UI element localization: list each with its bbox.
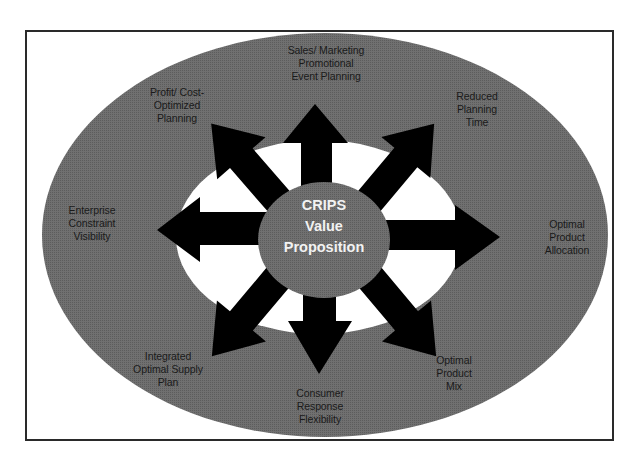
label-bottom-right-line3: Mix [436, 380, 472, 393]
label-bottom-right-line2: Product [436, 367, 472, 380]
label-bottom-right-line1: Optimal [436, 354, 472, 367]
center-title-line2: Value [284, 216, 365, 237]
label-bottom: Consumer Response Flexibility [296, 387, 344, 426]
label-top-left-line3: Planning [150, 112, 204, 125]
label-left-line2: Constraint [69, 217, 116, 230]
label-top: Sales/ Marketing Promotional Event Plann… [288, 44, 365, 83]
label-right-line3: Allocation [545, 244, 590, 257]
label-top-left-line2: Optimized [150, 99, 204, 112]
label-bottom-left-line1: Integrated [133, 350, 203, 363]
label-top-right: Reduced Planning Time [456, 90, 497, 129]
label-bottom-line2: Response [296, 400, 344, 413]
label-right-line1: Optimal [545, 218, 590, 231]
label-bottom-line1: Consumer [296, 387, 344, 400]
label-left: Enterprise Constraint Visibility [69, 204, 116, 243]
label-bottom-right: Optimal Product Mix [436, 354, 472, 393]
label-top-left: Profit/ Cost- Optimized Planning [150, 86, 204, 125]
label-top-left-line1: Profit/ Cost- [150, 86, 204, 99]
label-top-line1: Sales/ Marketing [288, 44, 365, 57]
label-left-line1: Enterprise [69, 204, 116, 217]
label-right-line2: Product [545, 231, 590, 244]
label-bottom-line3: Flexibility [296, 413, 344, 426]
label-top-line2: Promotional [288, 57, 365, 70]
center-title-line1: CRIPS [284, 195, 365, 216]
label-top-right-line3: Time [456, 116, 497, 129]
label-bottom-left-line2: Optimal Supply [133, 363, 203, 376]
center-title: CRIPS Value Proposition [284, 195, 365, 258]
label-top-right-line1: Reduced [456, 90, 497, 103]
center-title-line3: Proposition [284, 237, 365, 258]
label-bottom-left: Integrated Optimal Supply Plan [133, 350, 203, 389]
label-bottom-left-line3: Plan [133, 376, 203, 389]
label-left-line3: Visibility [69, 230, 116, 243]
label-right: Optimal Product Allocation [545, 218, 590, 257]
label-top-line3: Event Planning [288, 70, 365, 83]
label-top-right-line2: Planning [456, 103, 497, 116]
